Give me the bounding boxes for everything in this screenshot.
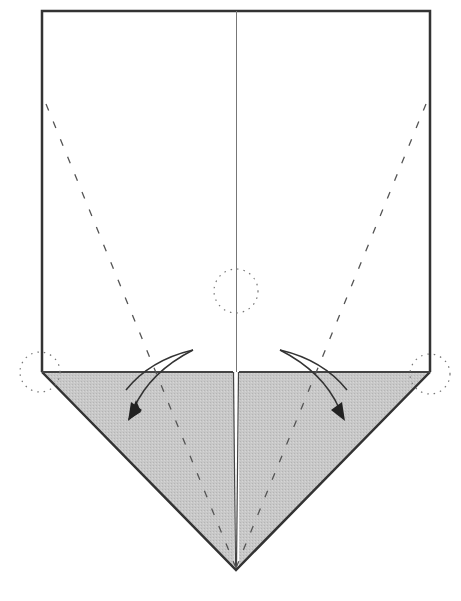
origami-diagram	[0, 0, 461, 601]
right-flap-inner-edge	[237, 372, 239, 566]
